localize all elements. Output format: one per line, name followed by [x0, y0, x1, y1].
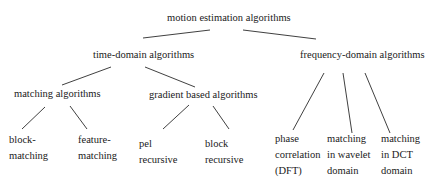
edge-gradient-to-pel-recursive: [163, 105, 189, 129]
node-label-line: in DCT: [381, 147, 420, 163]
edge-frequency-to-phase-correlation: [293, 73, 324, 130]
edge-root-to-time-domain: [143, 30, 210, 38]
node-label-line: pel: [139, 136, 177, 152]
node-label-line: domain: [381, 163, 420, 179]
node-label-line: in wavelet: [327, 147, 370, 163]
node-label: gradient based algorithms: [149, 87, 257, 103]
node-gradient-based: gradient based algorithms: [149, 87, 257, 103]
node-label: motion estimation algorithms: [167, 10, 291, 26]
node-matching-algorithms: matching algorithms: [14, 86, 101, 102]
edge-frequency-to-wavelet: [343, 73, 352, 133]
motion-estimation-tree-diagram: motion estimation algorithms time-domain…: [0, 0, 433, 184]
node-label-line: recursive: [205, 152, 243, 168]
node-label-line: correlation: [275, 147, 320, 163]
edge-time-to-gradient: [145, 67, 195, 87]
node-matching-wavelet: matching in wavelet domain: [327, 131, 370, 179]
node-matching-dct: matching in DCT domain: [381, 131, 420, 179]
node-label-line: matching: [381, 131, 420, 147]
edge-root-to-frequency-domain: [243, 30, 316, 39]
node-root: motion estimation algorithms: [167, 10, 291, 26]
node-pel-recursive: pel recursive: [139, 136, 177, 168]
node-frequency-domain: frequency-domain algorithms: [300, 47, 425, 63]
node-label-line: domain: [327, 163, 370, 179]
edge-matching-to-feature-matching: [70, 106, 87, 129]
node-block-matching: block- matching: [9, 132, 48, 164]
node-label-line: (DFT): [275, 163, 320, 179]
node-label-line: matching: [78, 148, 117, 164]
node-block-recursive: block recursive: [205, 136, 243, 168]
edge-gradient-to-block-recursive: [213, 106, 229, 129]
node-label-line: matching: [9, 148, 48, 164]
node-time-domain: time-domain algorithms: [93, 47, 194, 63]
node-label-line: phase: [275, 131, 320, 147]
node-label-line: matching: [327, 131, 370, 147]
node-label-line: feature-: [78, 132, 117, 148]
node-feature-matching: feature- matching: [78, 132, 117, 164]
edge-matching-to-block-matching: [22, 107, 45, 129]
node-label-line: block: [205, 136, 243, 152]
node-label: frequency-domain algorithms: [300, 47, 425, 63]
node-label: matching algorithms: [14, 86, 101, 102]
node-label: time-domain algorithms: [93, 47, 194, 63]
edge-time-to-matching: [62, 67, 111, 85]
node-phase-correlation: phase correlation (DFT): [275, 131, 320, 179]
node-label-line: recursive: [139, 152, 177, 168]
node-label-line: block-: [9, 132, 48, 148]
edge-frequency-to-dct: [365, 73, 390, 133]
